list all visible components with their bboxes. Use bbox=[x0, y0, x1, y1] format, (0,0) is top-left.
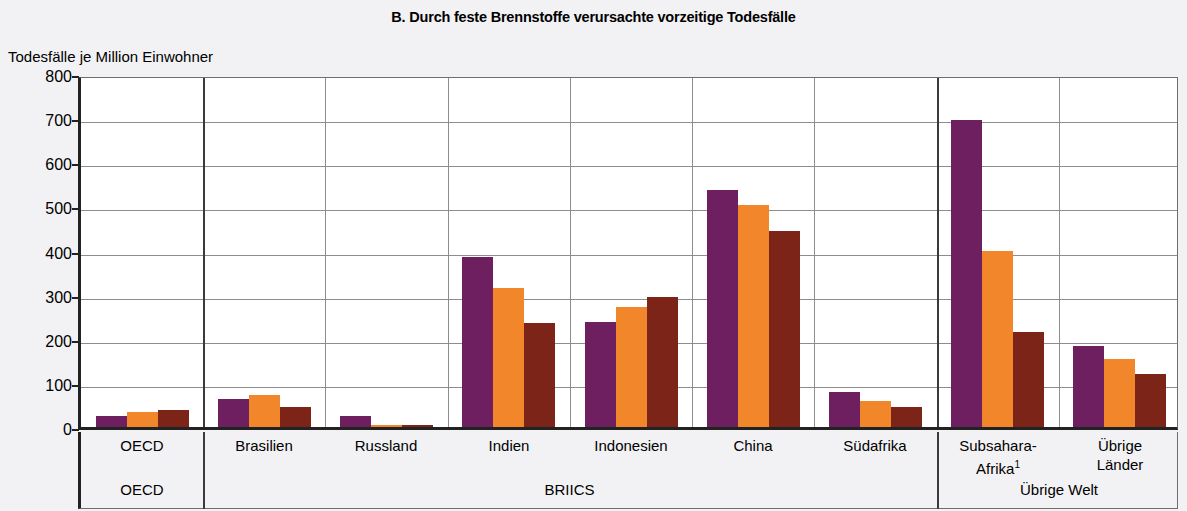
footnote-marker: 1 bbox=[1014, 459, 1020, 470]
category-label: Südafrika bbox=[814, 436, 936, 455]
chart-title: B. Durch feste Brennstoffe verursachte v… bbox=[0, 9, 1187, 25]
bar bbox=[402, 425, 433, 427]
group-separator bbox=[937, 432, 939, 509]
y-axis-tick-label: 800 bbox=[6, 68, 72, 86]
bar-group bbox=[96, 77, 189, 427]
category-label: ÜbrigeLänder bbox=[1059, 436, 1181, 474]
bar bbox=[340, 416, 371, 427]
bar bbox=[280, 407, 311, 427]
bar bbox=[707, 190, 738, 427]
bar bbox=[1013, 332, 1044, 427]
bar-group bbox=[585, 77, 678, 427]
chart-page: B. Durch feste Brennstoffe verursachte v… bbox=[0, 0, 1187, 511]
bar bbox=[158, 410, 189, 427]
y-axis-tick-label: 200 bbox=[6, 333, 72, 351]
y-axis-tick-label: 100 bbox=[6, 377, 72, 395]
bar bbox=[96, 416, 127, 427]
bar bbox=[462, 257, 493, 427]
bar-group bbox=[951, 77, 1044, 427]
bar bbox=[738, 205, 769, 427]
category-axis: OECDBrasilienRusslandIndienIndonesienChi… bbox=[78, 432, 1178, 509]
y-axis-tick-label: 400 bbox=[6, 245, 72, 263]
bar-group bbox=[218, 77, 311, 427]
category-label: Russland bbox=[325, 436, 447, 455]
bar-group bbox=[462, 77, 555, 427]
bar bbox=[524, 323, 555, 427]
bar bbox=[371, 425, 402, 427]
bar bbox=[951, 120, 982, 427]
group-label: Übrige Welt bbox=[937, 480, 1181, 499]
category-label: Indonesien bbox=[570, 436, 692, 455]
group-label: BRIICS bbox=[203, 480, 936, 499]
bar bbox=[1104, 359, 1135, 427]
bar bbox=[769, 231, 800, 427]
bar bbox=[982, 251, 1013, 427]
bars-layer bbox=[81, 77, 1178, 427]
bar bbox=[829, 392, 860, 427]
y-axis-tick-labels: 0100200300400500600700800 bbox=[0, 77, 72, 430]
bar bbox=[1135, 374, 1166, 427]
category-label: Indien bbox=[448, 436, 570, 455]
bar bbox=[860, 401, 891, 427]
bar bbox=[647, 297, 678, 427]
bar bbox=[249, 395, 280, 427]
category-label: Brasilien bbox=[203, 436, 325, 455]
bar bbox=[218, 399, 249, 427]
bar-group bbox=[1073, 77, 1166, 427]
y-axis-tick-label: 500 bbox=[6, 200, 72, 218]
bar-group bbox=[707, 77, 800, 427]
category-label: OECD bbox=[81, 436, 203, 455]
y-axis-tick-label: 0 bbox=[6, 421, 72, 439]
group-label: OECD bbox=[81, 480, 203, 499]
y-axis-tick-label: 600 bbox=[6, 156, 72, 174]
category-label: China bbox=[692, 436, 814, 455]
category-label: Subsahara-Afrika1 bbox=[937, 436, 1059, 478]
bar bbox=[891, 407, 922, 427]
bar-group bbox=[829, 77, 922, 427]
y-axis-tick-label: 700 bbox=[6, 112, 72, 130]
bar bbox=[127, 412, 158, 427]
bar-group bbox=[340, 77, 433, 427]
bar bbox=[1073, 346, 1104, 427]
bar bbox=[585, 322, 616, 427]
bar bbox=[493, 288, 524, 427]
bar bbox=[616, 307, 647, 427]
y-axis-caption: Todesfälle je Million Einwohner bbox=[8, 48, 213, 65]
y-axis-tick-label: 300 bbox=[6, 289, 72, 307]
group-separator bbox=[203, 432, 205, 509]
